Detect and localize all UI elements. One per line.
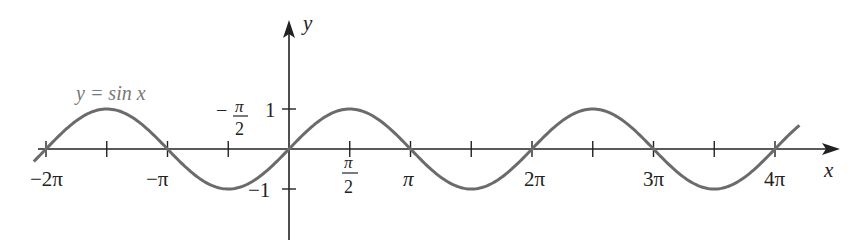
x-label-neg-pi: −π — [146, 167, 169, 191]
y-axis-label: y — [301, 11, 313, 35]
y-label-neg1: −1 — [248, 178, 270, 202]
neg-half-pi-sign: − — [216, 99, 227, 121]
x-label-half-pi-num: π — [344, 153, 353, 172]
neg-half-pi-num: π — [235, 97, 244, 116]
x-label-2pi: 2π — [524, 167, 546, 191]
x-label-pi: π — [403, 167, 414, 191]
x-label-3pi: 3π — [643, 167, 665, 191]
x-label-neg-2pi: −2π — [30, 167, 63, 191]
x-label-4pi: 4π — [764, 167, 786, 191]
sine-graph: y = sin x y x −2π −π π 2π 3π 4π π 2 − π … — [0, 0, 864, 252]
x-axis-label: x — [823, 158, 834, 182]
x-label-half-pi-den: 2 — [344, 177, 353, 197]
neg-half-pi-den: 2 — [235, 119, 244, 139]
function-label: y = sin x — [74, 82, 146, 105]
y-label-1: 1 — [265, 98, 276, 122]
